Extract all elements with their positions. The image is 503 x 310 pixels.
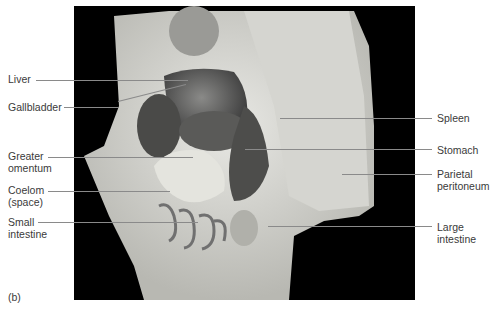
label-parietal-peritoneum: Parietal peritoneum <box>437 168 490 192</box>
leader-line-coelom <box>48 191 170 192</box>
label-stomach: Stomach <box>437 144 478 156</box>
leader-line-spleen <box>280 118 432 119</box>
leader-line-gallbladder <box>64 107 119 108</box>
leader-line-parietal-peritoneum <box>342 174 432 175</box>
leader-line-small-intestine <box>38 222 198 223</box>
panel-label: (b) <box>8 291 21 303</box>
label-large-intestine: Large intestine <box>437 221 476 245</box>
leader-line-stomach <box>245 149 432 150</box>
leader-line-greater-omentum <box>48 157 193 158</box>
dissection-illustration <box>74 6 415 300</box>
label-greater-omentum: Greater omentum <box>8 150 52 174</box>
leader-line-large-intestine <box>268 226 432 227</box>
label-gallbladder: Gallbladder <box>8 101 62 113</box>
label-spleen: Spleen <box>437 112 470 124</box>
label-small-intestine: Small intestine <box>8 216 47 240</box>
label-coelom: Coelom (space) <box>8 184 44 208</box>
dissection-photo <box>74 6 415 300</box>
leader-line-liver <box>36 80 188 81</box>
label-liver: Liver <box>8 73 31 85</box>
